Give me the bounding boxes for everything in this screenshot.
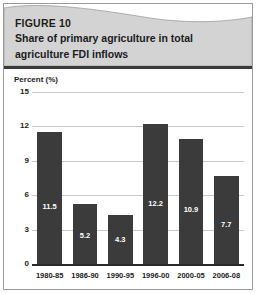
y-tick-label-0: 0: [14, 260, 29, 268]
x-axis-label-1996-00: 1996-00: [138, 271, 173, 281]
chart-area: Percent (%) 03691215 11.55.24.312.210.97…: [4, 69, 252, 289]
y-tick-label-12: 12: [14, 122, 29, 130]
figure-number: FIGURE 10: [15, 17, 243, 30]
bar-slot: 10.9: [179, 92, 204, 264]
bar-slot: 11.5: [37, 92, 62, 264]
figure-card: FIGURE 10 Share of primary agriculture i…: [0, 0, 257, 294]
bar-2006-08[interactable]: 7.7: [214, 176, 239, 264]
y-tick-label-3: 3: [14, 226, 29, 234]
y-tick-label-9: 9: [14, 157, 29, 165]
x-axis-label-2000-05: 2000-05: [173, 271, 208, 281]
bar-1990-95[interactable]: 4.3: [108, 215, 133, 264]
bar-slot: 12.2: [143, 92, 168, 264]
figure-title-line-2: agriculture FDI inflows: [15, 48, 243, 62]
bar-slot: 5.2: [73, 92, 98, 264]
bar-value-label-1986-90: 5.2: [73, 232, 98, 240]
y-tick-label-6: 6: [14, 191, 29, 199]
bar-value-label-1990-95: 4.3: [108, 236, 133, 244]
y-tick-label-15: 15: [14, 88, 29, 96]
bar-1980-85[interactable]: 11.5: [37, 132, 62, 264]
gridline-0: [32, 264, 244, 266]
bars-group: 11.55.24.312.210.97.7: [32, 92, 244, 264]
figure-header-banner: FIGURE 10 Share of primary agriculture i…: [4, 4, 252, 66]
x-axis-label-1990-95: 1990-95: [103, 271, 138, 281]
bar-2000-05[interactable]: 10.9: [179, 139, 204, 264]
bar-value-label-1996-00: 12.2: [143, 200, 168, 208]
y-axis-unit-label: Percent (%): [14, 75, 58, 84]
bar-value-label-2006-08: 7.7: [214, 221, 239, 229]
x-axis-labels-group: 1980-851986-901990-951996-002000-052006-…: [32, 271, 244, 283]
bar-value-label-1980-85: 11.5: [37, 203, 62, 211]
x-axis-label-2006-08: 2006-08: [209, 271, 244, 281]
figure-title-line-1: Share of primary agriculture in total: [15, 32, 243, 46]
figure-header-text: FIGURE 10 Share of primary agriculture i…: [15, 17, 243, 61]
bar-value-label-2000-05: 10.9: [179, 206, 204, 214]
x-axis-label-1980-85: 1980-85: [32, 271, 67, 281]
bar-1986-90[interactable]: 5.2: [73, 204, 98, 264]
bar-1996-00[interactable]: 12.2: [143, 124, 168, 264]
bar-slot: 4.3: [108, 92, 133, 264]
plot-canvas: 03691215 11.55.24.312.210.97.7 1980-8519…: [14, 92, 244, 289]
x-axis-label-1986-90: 1986-90: [67, 271, 102, 281]
bar-slot: 7.7: [214, 92, 239, 264]
